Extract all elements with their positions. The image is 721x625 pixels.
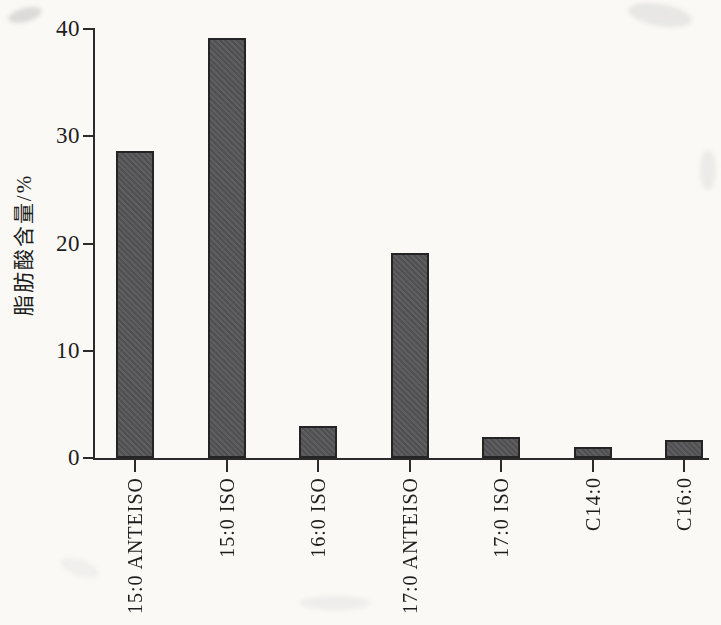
x-tick xyxy=(592,460,594,472)
x-tick-label: 15:0 ANTEISO xyxy=(123,477,147,614)
x-tick-label: C16:0 xyxy=(672,477,696,531)
y-axis-line xyxy=(93,28,95,460)
y-tick-label: 30 xyxy=(30,124,80,148)
y-tick xyxy=(83,243,93,245)
y-tick xyxy=(83,457,93,459)
x-tick xyxy=(500,460,502,472)
x-tick-label: 16:0 ISO xyxy=(306,477,330,558)
bar-15-0-iso xyxy=(208,38,246,458)
bar-16-0-iso xyxy=(299,426,337,458)
x-tick-label: 17:0 ANTEISO xyxy=(398,477,422,614)
y-tick-label: 0 xyxy=(30,446,80,470)
y-tick xyxy=(83,135,93,137)
x-tick xyxy=(226,460,228,472)
bar-15-0-anteiso xyxy=(116,151,154,458)
x-tick-label: C14:0 xyxy=(581,477,605,531)
y-tick-label: 10 xyxy=(30,339,80,363)
scanned-chart-page: 脂肪酸含量/% 010203040 15:0 ANTEISO15:0 ISO16… xyxy=(0,0,721,625)
y-tick xyxy=(83,350,93,352)
bar-c14-0 xyxy=(574,447,612,458)
x-tick-label: 17:0 ISO xyxy=(489,477,513,558)
fatty-acid-bar-chart: 脂肪酸含量/% 010203040 15:0 ANTEISO15:0 ISO16… xyxy=(0,0,721,625)
y-tick-label: 20 xyxy=(30,232,80,256)
bar-c16-0 xyxy=(665,440,703,458)
x-tick xyxy=(683,460,685,472)
x-tick xyxy=(317,460,319,472)
x-tick xyxy=(409,460,411,472)
x-tick-label: 15:0 ISO xyxy=(215,477,239,558)
x-tick xyxy=(134,460,136,472)
bar-17-0-anteiso xyxy=(391,253,429,458)
y-tick-label: 40 xyxy=(30,17,80,41)
y-tick xyxy=(83,28,93,30)
bar-17-0-iso xyxy=(482,437,520,458)
x-axis-line xyxy=(93,458,709,460)
